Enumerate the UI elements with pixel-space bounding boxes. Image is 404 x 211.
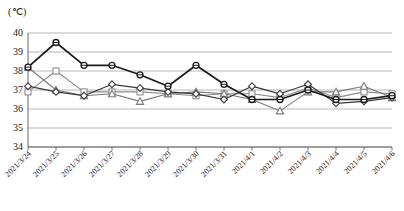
data-point-marker-circle bbox=[249, 97, 255, 103]
data-point-marker-circle bbox=[109, 62, 115, 68]
data-point-marker-triangle bbox=[360, 83, 367, 90]
data-point-marker-circle bbox=[277, 97, 283, 103]
x-axis-tick-labels: 2021/3/242021/3/252021/3/262021/3/272021… bbox=[3, 149, 397, 179]
data-point-marker-circle bbox=[193, 62, 199, 68]
y-tick-label-40: 40 bbox=[13, 27, 23, 38]
x-tick-label-2021-3-29: 2021/3/29 bbox=[143, 149, 173, 179]
chart-container: (℃) 34353637383940 2021/3/242021/3/25202… bbox=[0, 0, 404, 211]
x-tick-label-2021-3-27: 2021/3/27 bbox=[87, 149, 117, 179]
x-tick-label-2021-4-3: 2021/4/3 bbox=[286, 149, 313, 176]
data-point-marker-diamond bbox=[53, 89, 60, 96]
x-tick-label-2021-3-31: 2021/3/31 bbox=[199, 149, 229, 179]
x-tick-label-2021-4-6: 2021/4/6 bbox=[370, 149, 397, 176]
x-tick-label-2021-4-1: 2021/4/1 bbox=[230, 149, 257, 176]
y-tick-label-37: 37 bbox=[13, 84, 23, 95]
x-tick-label-2021-4-2: 2021/4/2 bbox=[258, 149, 285, 176]
x-tick-label-2021-3-28: 2021/3/28 bbox=[115, 149, 145, 179]
data-point-marker-square bbox=[361, 89, 367, 95]
data-point-marker-circle bbox=[361, 97, 367, 103]
y-axis-tick-labels: 34353637383940 bbox=[13, 27, 23, 152]
y-tick-label-35: 35 bbox=[13, 122, 23, 133]
data-point-marker-circle bbox=[305, 87, 311, 93]
data-point-marker-square bbox=[53, 68, 59, 74]
data-point-marker-circle bbox=[389, 93, 395, 99]
data-point-marker-circle bbox=[333, 97, 339, 103]
x-tick-label-2021-3-26: 2021/3/26 bbox=[59, 149, 89, 179]
data-series-group bbox=[24, 40, 395, 114]
y-tick-label-36: 36 bbox=[13, 103, 23, 114]
data-point-marker-circle bbox=[81, 62, 87, 68]
x-tick-label-2021-4-4: 2021/4/4 bbox=[314, 149, 341, 176]
data-point-marker-circle bbox=[25, 64, 31, 70]
temperature-line-chart: 34353637383940 2021/3/242021/3/252021/3/… bbox=[0, 0, 404, 211]
data-point-marker-circle bbox=[53, 40, 59, 46]
x-tick-label-2021-4-5: 2021/4/5 bbox=[342, 149, 369, 176]
x-tick-label-2021-3-25: 2021/3/25 bbox=[31, 149, 61, 179]
y-tick-label-34: 34 bbox=[13, 141, 23, 152]
y-tick-label-38: 38 bbox=[13, 65, 23, 76]
data-point-marker-diamond bbox=[109, 81, 116, 88]
data-point-marker-circle bbox=[137, 72, 143, 78]
data-point-marker-circle bbox=[165, 83, 171, 89]
x-tick-label-2021-3-24: 2021/3/24 bbox=[3, 149, 33, 179]
data-point-marker-circle bbox=[221, 81, 227, 87]
data-point-marker-triangle bbox=[276, 107, 283, 114]
series-2 bbox=[25, 81, 396, 107]
y-tick-label-39: 39 bbox=[13, 46, 23, 57]
data-point-marker-diamond bbox=[249, 83, 256, 90]
x-tick-label-2021-3-30: 2021/3/30 bbox=[171, 149, 201, 179]
